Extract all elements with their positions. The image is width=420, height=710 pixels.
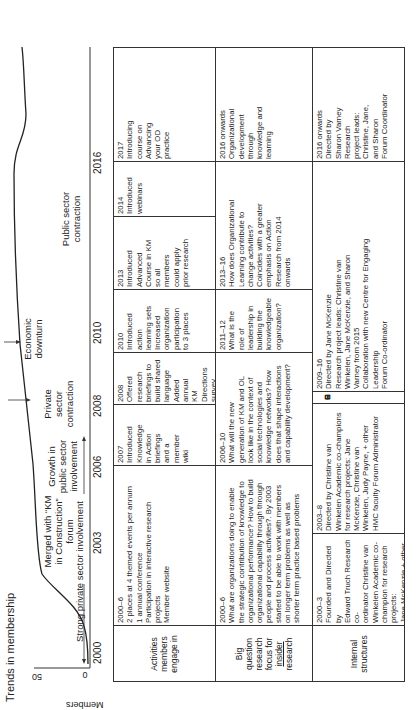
cell-line: projects xyxy=(153,468,162,623)
cell-line: Founded and Directed by xyxy=(324,536,343,623)
cell-line: Directed by xyxy=(324,50,333,159)
cell-line: member xyxy=(172,407,181,463)
cell-line: KM Directions xyxy=(190,355,209,402)
header-line: members xyxy=(159,635,169,672)
cell-line: Increased xyxy=(153,292,162,350)
cell-line: and a xyxy=(162,407,171,463)
internal-cell-2000: 2000–3 Founded and Directed by Edward Tr… xyxy=(313,534,404,626)
cell-line: Winkelen Academic co- xyxy=(371,536,380,623)
year-2008: 2008 xyxy=(92,395,103,417)
cell-line: knowledgeable xyxy=(264,292,273,350)
cell-line: ordinator Christine van xyxy=(361,536,370,623)
cell-line: Introduced xyxy=(125,292,134,350)
cell-line: 2000–6 xyxy=(116,468,125,623)
year-2010: 2010 xyxy=(92,322,103,344)
cell-line: so all xyxy=(153,219,162,287)
membership-chart xyxy=(0,0,120,704)
cell-line: does that shape interactions xyxy=(274,355,283,463)
cell-line: building the xyxy=(255,292,264,350)
cell-line: Added annual xyxy=(172,355,191,402)
annotation-line: sector xyxy=(53,369,64,439)
cell-line: champion for research projects: xyxy=(380,536,399,623)
cell-line: research xyxy=(135,355,144,402)
annotation-line: downturn xyxy=(33,309,44,369)
activities-cell-2007: 2007 Introduced Knowledge in Action brie… xyxy=(114,405,215,466)
cell-line: HMC faculty Forum Administrator xyxy=(371,406,380,531)
annotation-growth: Growth in public sector involvement xyxy=(46,429,79,504)
cell-line: Offered xyxy=(125,355,134,402)
cell-line: Introduced xyxy=(125,407,134,463)
cell-line: look like in the context of xyxy=(246,355,255,463)
activities-cell-2000: 2000–6 2 places at 4 themed events per a… xyxy=(114,466,215,626)
cell-line: 2016 onwards xyxy=(218,50,227,159)
cell-line: 2003–8 xyxy=(315,406,324,531)
year-2003: 2003 xyxy=(92,532,103,554)
cell-line: and Sharon xyxy=(371,50,380,159)
cell-line: through xyxy=(246,50,255,159)
cell-line: course on xyxy=(135,50,144,159)
header-line: research xyxy=(284,637,294,670)
internal-cell-2009: 2009–16 Directed by Jane McKenzie Resear… xyxy=(313,162,404,392)
cell-line: development xyxy=(237,50,246,159)
merger-letter: R xyxy=(323,392,333,402)
activities-cell-2014: 2014 Introduced webinars xyxy=(114,162,215,217)
cell-line: Directed by Jane McKenzie xyxy=(324,164,333,389)
cell-line: Coincides with a greater xyxy=(255,164,264,287)
cell-line: Member website xyxy=(162,468,171,623)
internal-cell-2016: 2016 onwards Directed by Sharon Varney R… xyxy=(313,48,404,162)
cell-line: 2013 xyxy=(116,219,125,287)
cell-line: could apply xyxy=(172,219,181,287)
cell-line: 2009–16 xyxy=(315,164,324,389)
cell-line: Introduced xyxy=(125,219,134,287)
activities-cell-2010: 2010 Introduced action learning sets Inc… xyxy=(114,290,215,353)
header-line: Internal xyxy=(349,635,359,672)
cell-line: Research xyxy=(343,50,352,159)
annotation-line: Economic xyxy=(22,309,33,369)
cell-line: survey xyxy=(209,355,215,402)
header-line: question xyxy=(244,637,254,670)
annotation-line: Private xyxy=(42,369,53,439)
cell-line: 2008 xyxy=(116,355,125,402)
big-question-cell-2006: 2006–10 What will the new generation of … xyxy=(216,353,312,466)
cell-line: 2011–12 xyxy=(218,292,227,350)
cell-line: 2007 xyxy=(116,407,125,463)
annotation-economic-downturn: Economic downturn xyxy=(22,309,44,369)
annotation-line: Growth in xyxy=(46,429,57,504)
cell-line: Winkelen, Judy Payne, + other xyxy=(361,406,370,531)
cell-line: Participation in interactive research xyxy=(144,468,153,623)
cell-line: people and process activities?. By 2003 xyxy=(264,468,273,623)
cell-line: generation of KM and OL xyxy=(237,355,246,463)
cell-line: briefings xyxy=(153,407,162,463)
cell-line: 2000–3 xyxy=(315,536,324,623)
cell-line: What is the xyxy=(227,292,236,350)
merger-column: M E R G E R xyxy=(313,392,404,404)
cell-line: Research from 2014 xyxy=(274,164,283,287)
cell-line: What will the new xyxy=(227,355,236,463)
header-line: structures xyxy=(359,635,369,672)
cell-line: webinars xyxy=(135,164,144,214)
big-question-cell-2011: 2011–12 What is the role of leadership i… xyxy=(216,290,312,353)
cell-line: knowledge and xyxy=(255,50,264,159)
cell-line: organizational capability through throug… xyxy=(255,468,264,623)
cell-line: Sharon Varney xyxy=(334,50,343,159)
cell-line: Advancing xyxy=(144,50,153,159)
cell-line: language xyxy=(162,355,171,402)
annotation-line: contraction xyxy=(71,174,82,264)
cell-line: organization? xyxy=(274,292,283,350)
cell-line: leadership in xyxy=(246,292,255,350)
activities-cell-2017: 2017 Introducing course on Advancing you… xyxy=(114,48,215,162)
cell-line: Forum Co-ordinator xyxy=(380,164,389,389)
year-2006: 2006 xyxy=(92,456,103,478)
cell-line: Organizational xyxy=(227,50,236,159)
activities-cell-2008: 2008 Offered research briefings to build… xyxy=(114,353,215,405)
cell-line: Jane McKenzie + other HMC xyxy=(399,536,404,623)
annotation-line: Public sector xyxy=(60,174,71,264)
cell-line: onwards xyxy=(283,164,292,287)
cell-line: Introduced xyxy=(125,164,134,214)
cell-line: 2016 onwards xyxy=(315,50,324,159)
cell-line: Winkelen Academic co-champions xyxy=(334,406,343,531)
cell-line: on longer term problems as well as xyxy=(283,468,292,623)
cell-line: Forum Coordinator xyxy=(380,50,389,159)
cell-line: started to be able to work with members xyxy=(274,468,283,623)
